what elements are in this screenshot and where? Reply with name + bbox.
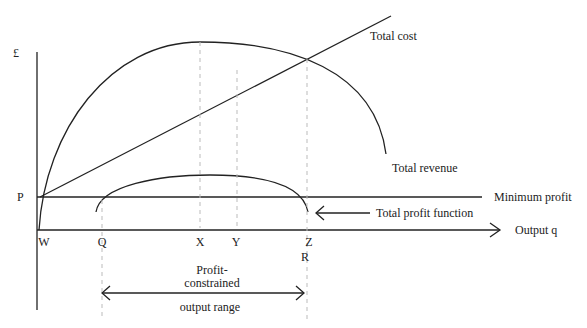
range-label-1: Profit- bbox=[196, 263, 227, 277]
range-label-2: constrained bbox=[184, 276, 239, 290]
point-r: R bbox=[301, 250, 309, 264]
range-label-3: output range bbox=[180, 300, 240, 314]
y-axis-label: £ bbox=[13, 46, 19, 60]
point-y: Y bbox=[232, 235, 241, 249]
price-label: P bbox=[17, 190, 24, 204]
total-revenue-curve bbox=[39, 42, 386, 230]
output-axis-label: Output q bbox=[515, 223, 557, 237]
diagram-canvas bbox=[0, 0, 587, 328]
total-profit-curve bbox=[96, 175, 308, 212]
point-z: Z bbox=[305, 235, 312, 249]
total-profit-label: Total profit function bbox=[376, 206, 473, 220]
total-cost-label: Total cost bbox=[370, 29, 417, 43]
point-x: X bbox=[196, 235, 205, 249]
total-cost-line bbox=[40, 16, 391, 197]
minimum-profit-label: Minimum profit bbox=[494, 190, 572, 204]
point-q: Q bbox=[98, 235, 107, 249]
point-w: W bbox=[38, 235, 49, 249]
total-revenue-label: Total revenue bbox=[392, 161, 457, 175]
